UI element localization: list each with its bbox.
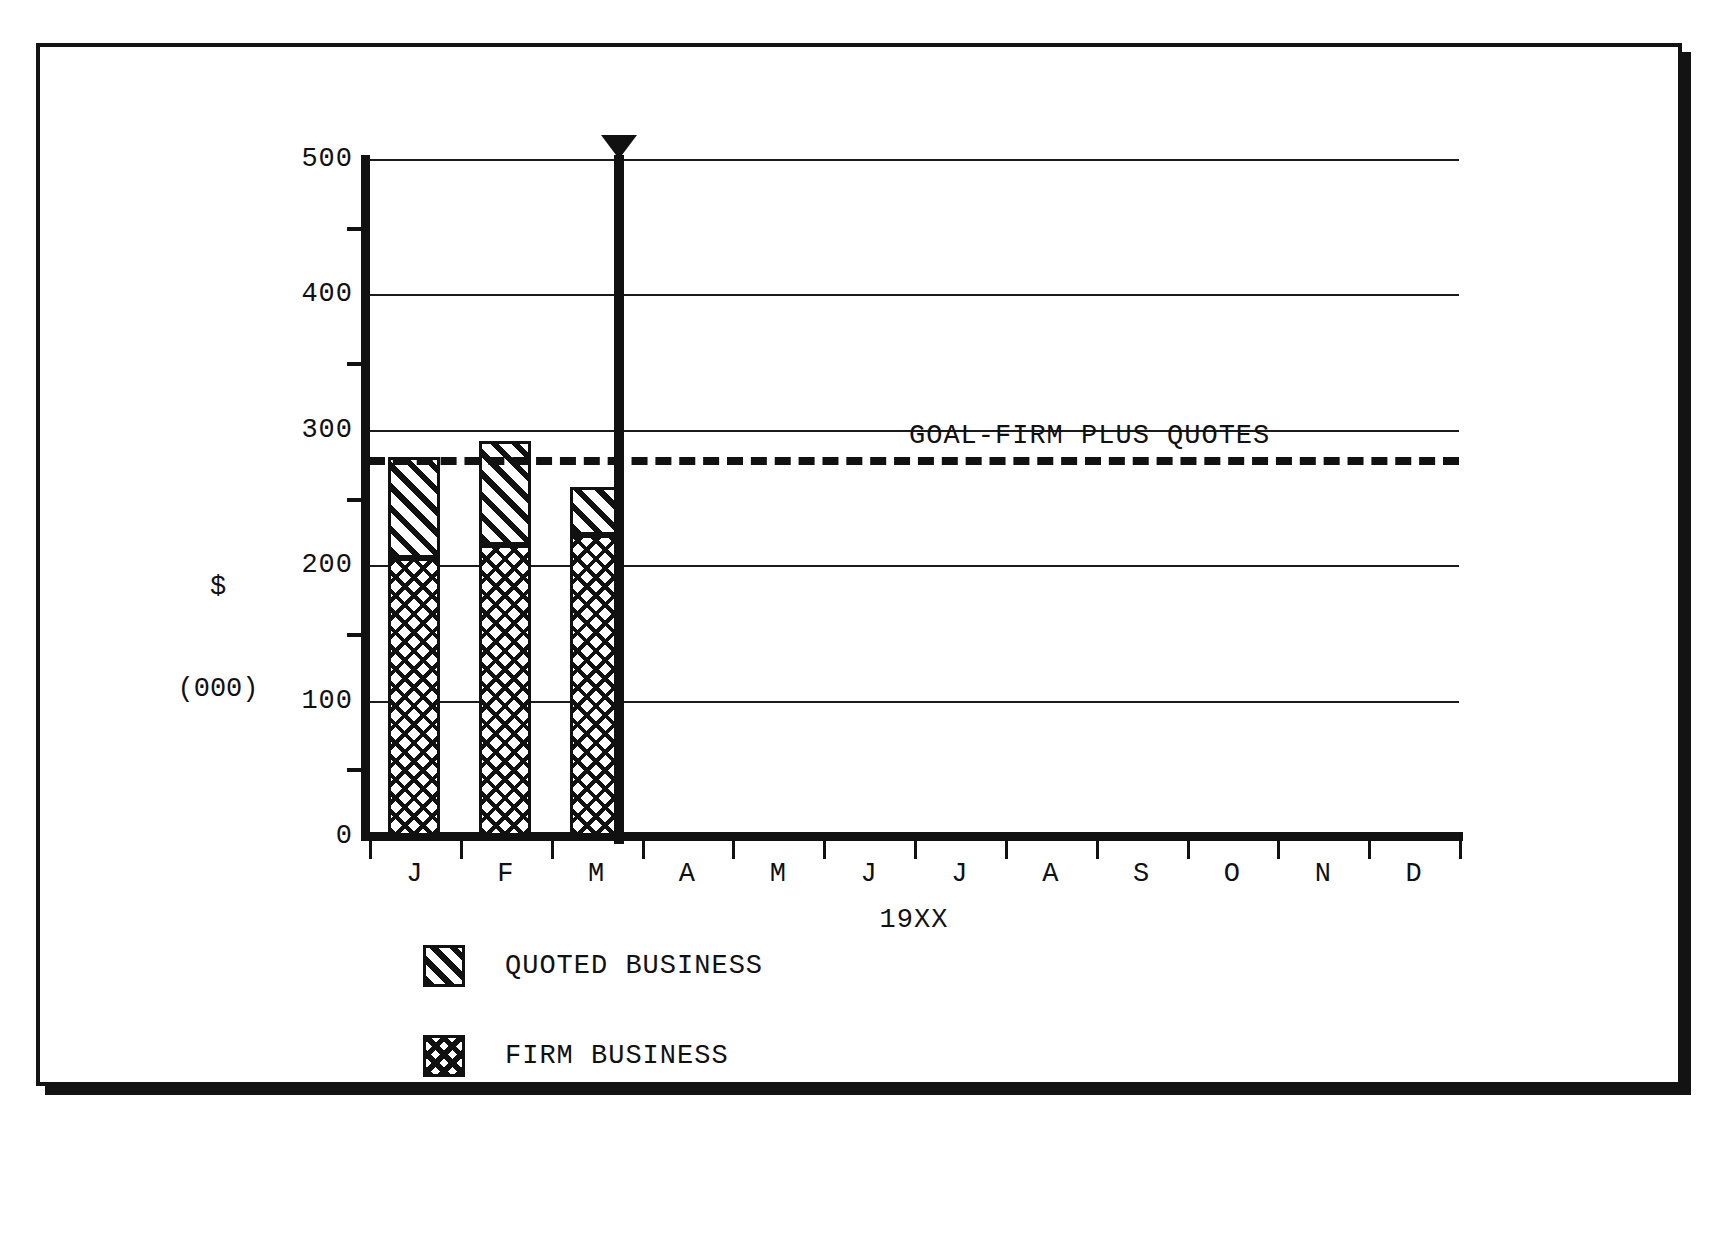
x-axis-tick — [1096, 841, 1099, 859]
x-axis-tick — [1459, 841, 1462, 859]
chart-card-frame: $ (000) 5004003002001000 GOAL-FIRM PLUS … — [36, 43, 1682, 1086]
x-axis-month-label-a-3: A — [679, 859, 695, 889]
y-axis-tick-labels: 5004003002001000 — [295, 159, 353, 836]
y-axis-title-line2: (000) — [158, 672, 278, 706]
y-axis-title: $ (000) — [158, 502, 278, 774]
gridline — [369, 159, 1459, 161]
x-axis-month-label-j-5: J — [860, 859, 876, 889]
x-axis-tick — [369, 841, 372, 859]
y-axis-minor-tick — [347, 498, 367, 502]
goal-line-label: GOAL-FIRM PLUS QUOTES — [909, 421, 1270, 451]
y-axis-minor-tick — [347, 227, 367, 231]
y-axis-tick-label: 100 — [301, 686, 353, 716]
legend-label: FIRM BUSINESS — [505, 1041, 729, 1071]
x-axis-month-label-d-11: D — [1405, 859, 1421, 889]
bar-segment-quoted-business — [388, 457, 440, 559]
x-axis-tick — [1187, 841, 1190, 859]
y-axis-minor-tick — [347, 768, 367, 772]
legend-swatch-cross-hatch — [423, 1035, 465, 1077]
y-axis-tick-label: 300 — [301, 415, 353, 445]
x-axis-month-label-o-9: O — [1224, 859, 1240, 889]
x-axis-title: 19XX — [880, 905, 949, 935]
x-axis-tick — [642, 841, 645, 859]
legend-swatch-diagonal-hatch — [423, 945, 465, 987]
x-axis-month-label-j-0: J — [406, 859, 422, 889]
goal-line — [369, 457, 1459, 465]
bar-segment-firm-business — [388, 558, 440, 836]
y-axis-title-line1: $ — [158, 570, 278, 604]
chart-legend: QUOTED BUSINESSFIRM BUSINESS — [423, 937, 763, 1117]
legend-item-quoted-business: QUOTED BUSINESS — [423, 937, 763, 995]
x-axis-tick — [551, 841, 554, 859]
y-axis-tick-label: 0 — [336, 821, 353, 851]
bar-j-0 — [388, 457, 440, 836]
gridline — [369, 565, 1459, 567]
x-axis-month-label-f-1: F — [497, 859, 513, 889]
bar-f-1 — [479, 441, 531, 836]
plot-area: GOAL-FIRM PLUS QUOTES — [369, 159, 1459, 836]
legend-label: QUOTED BUSINESS — [505, 951, 763, 981]
gridline — [369, 701, 1459, 703]
x-axis-tick — [460, 841, 463, 859]
x-axis-month-label-m-2: M — [588, 859, 604, 889]
y-axis-tick-label: 200 — [301, 550, 353, 580]
bar-segment-firm-business — [479, 545, 531, 836]
y-axis-tick-label: 500 — [301, 144, 353, 174]
x-axis-month-label-n-10: N — [1315, 859, 1331, 889]
x-axis-month-label-j-6: J — [951, 859, 967, 889]
x-axis-month-label-s-8: S — [1133, 859, 1149, 889]
y-axis-tick-label: 400 — [301, 279, 353, 309]
x-axis-tick — [1368, 841, 1371, 859]
legend-item-firm-business: FIRM BUSINESS — [423, 1027, 763, 1085]
today-marker-line — [614, 155, 624, 844]
x-axis-tick — [1005, 841, 1008, 859]
x-axis-month-label-m-4: M — [770, 859, 786, 889]
y-axis-minor-tick — [347, 362, 367, 366]
x-axis-tick — [914, 841, 917, 859]
y-axis-minor-tick — [347, 633, 367, 637]
x-axis-tick — [732, 841, 735, 859]
x-axis-tick — [1277, 841, 1280, 859]
x-axis-tick — [823, 841, 826, 859]
today-marker-arrow-icon — [601, 135, 637, 159]
gridline — [369, 294, 1459, 296]
x-axis-month-label-a-7: A — [1042, 859, 1058, 889]
business-backlog-bar-chart: $ (000) 5004003002001000 GOAL-FIRM PLUS … — [40, 47, 1686, 1090]
